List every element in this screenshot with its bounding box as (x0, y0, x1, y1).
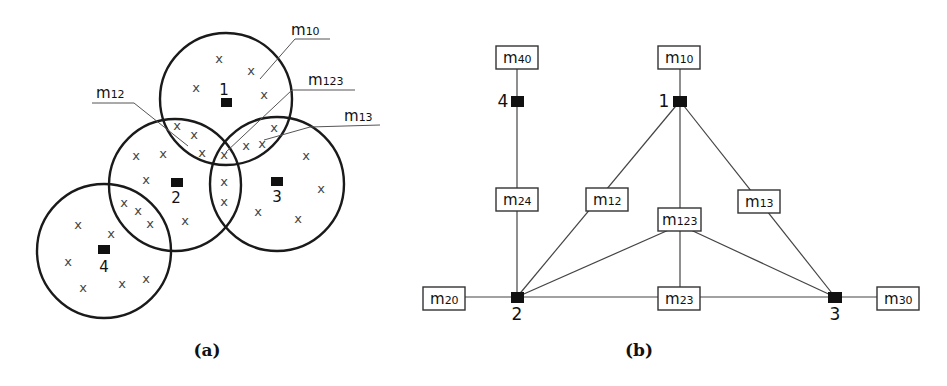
edge-m123-3 (680, 225, 835, 297)
svg-text:x: x (146, 216, 154, 231)
figure: x x x x x x x x x x x x x x x x x x x x … (0, 0, 947, 386)
svg-text:x: x (270, 120, 278, 135)
caption-a: (a) (193, 340, 220, 360)
box-m123: m123 (658, 208, 701, 231)
svg-text:x: x (159, 146, 167, 161)
node-4-label: 4 (498, 91, 509, 111)
site-1-marker (221, 98, 232, 107)
svg-text:x: x (192, 80, 200, 95)
svg-text:x: x (220, 174, 228, 189)
svg-text:x: x (190, 127, 198, 142)
box-m13: m13 (738, 190, 780, 213)
node-3 (828, 292, 842, 303)
node-3-label: 3 (830, 304, 841, 324)
box-m30: m30 (877, 287, 919, 310)
svg-text:x: x (64, 254, 72, 269)
svg-text:x: x (254, 204, 262, 219)
svg-text:x: x (118, 276, 126, 291)
node-4 (511, 96, 524, 107)
label-m123: m123 (308, 71, 344, 89)
label-m10: m10 (291, 21, 320, 39)
site-2-label: 2 (171, 189, 181, 207)
box-m10: m10 (658, 46, 700, 69)
panel-b: m40 m10 m24 m12 m123 m13 m20 m23 (423, 46, 919, 360)
label-m12: m12 (96, 84, 125, 102)
panel-a: x x x x x x x x x x x x x x x x x x x x … (37, 21, 380, 360)
site-3-marker (271, 177, 283, 186)
svg-text:x: x (198, 145, 206, 160)
box-m20: m20 (423, 287, 465, 310)
svg-text:x: x (220, 194, 228, 209)
svg-text:x: x (317, 181, 325, 196)
svg-text:x: x (294, 211, 302, 226)
site-1-label: 1 (219, 81, 229, 99)
site-3-label: 3 (272, 188, 282, 206)
svg-text:x: x (120, 195, 128, 210)
node-1-label: 1 (659, 91, 670, 111)
svg-text:x: x (215, 51, 223, 66)
label-m13: m13 (344, 107, 373, 125)
box-m23: m23 (658, 287, 700, 310)
box-m24: m24 (496, 188, 538, 211)
svg-text:x: x (79, 280, 87, 295)
svg-text:x: x (181, 213, 189, 228)
svg-text:x: x (302, 148, 310, 163)
site-2-marker (171, 178, 183, 187)
site-4-label: 4 (99, 258, 109, 276)
node-2-label: 2 (512, 304, 523, 324)
node-2 (511, 292, 524, 303)
svg-text:x: x (74, 217, 82, 232)
svg-text:x: x (173, 118, 181, 133)
edge-m123-2 (517, 225, 680, 297)
site-4-marker (98, 245, 110, 254)
svg-text:x: x (258, 136, 266, 151)
box-m12: m12 (586, 188, 628, 211)
svg-text:x: x (142, 271, 150, 286)
svg-text:x: x (132, 148, 140, 163)
box-m40: m40 (496, 46, 538, 69)
caption-b: (b) (625, 340, 653, 360)
svg-text:x: x (220, 147, 228, 162)
svg-text:x: x (260, 87, 268, 102)
leader-m13 (264, 125, 380, 140)
svg-text:x: x (142, 172, 150, 187)
node-1 (673, 96, 687, 107)
svg-text:x: x (107, 226, 115, 241)
svg-text:x: x (247, 63, 255, 78)
svg-text:x: x (134, 203, 142, 218)
svg-text:x: x (242, 138, 250, 153)
